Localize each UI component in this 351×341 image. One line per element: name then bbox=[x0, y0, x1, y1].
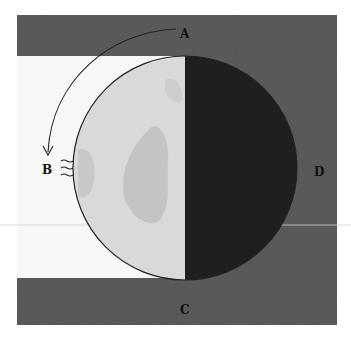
moon bbox=[73, 56, 297, 280]
label-c: C bbox=[180, 303, 190, 317]
moon-phase-diagram: A B C D bbox=[0, 0, 351, 341]
label-a: A bbox=[179, 27, 190, 41]
label-d: D bbox=[314, 165, 324, 179]
label-b: B bbox=[42, 163, 52, 177]
